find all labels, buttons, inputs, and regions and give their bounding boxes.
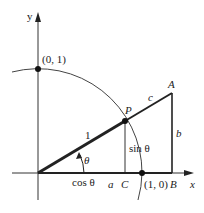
label-a: a — [108, 178, 114, 190]
label-A: A — [167, 78, 175, 90]
label-sin-theta: sin θ — [129, 142, 150, 154]
label-c: c — [148, 91, 153, 103]
point-0-1 — [35, 66, 41, 72]
label-theta: θ — [84, 154, 90, 166]
x-axis-label: x — [189, 178, 195, 190]
label-C: C — [121, 178, 129, 190]
point-1-0 — [139, 170, 145, 176]
y-axis-label: y — [27, 10, 33, 22]
angle-arrow-icon — [76, 152, 82, 159]
label-0-1: (0, 1) — [42, 53, 66, 66]
x-axis-arrow-icon — [184, 170, 194, 176]
label-b: b — [176, 127, 182, 139]
label-1-0: (1, 0) — [144, 178, 168, 191]
y-axis-arrow-icon — [35, 12, 41, 22]
unit-circle-diagram: y x (0, 1) (1, 0) P A B C 1 c b a cos θ … — [0, 0, 204, 213]
label-radius-1: 1 — [85, 129, 91, 141]
label-cos-theta: cos θ — [72, 176, 95, 188]
unit-circle-arc-tail — [138, 173, 142, 200]
label-P: P — [124, 104, 132, 116]
radius-segment — [38, 121, 125, 173]
label-B: B — [170, 178, 177, 190]
point-P — [122, 118, 128, 124]
